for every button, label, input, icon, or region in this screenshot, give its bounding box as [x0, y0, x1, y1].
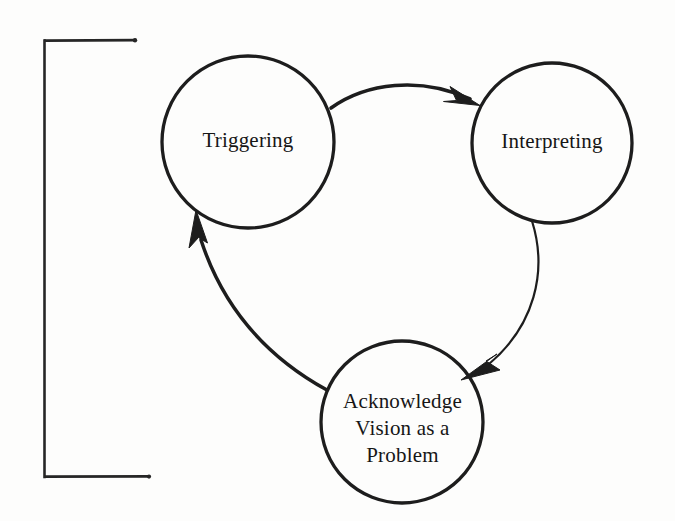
edge-line-acknowledge-to-triggering — [201, 240, 327, 390]
node-label-line-2: Vision as a — [322, 415, 483, 442]
edge-line-triggering-to-interpreting — [331, 85, 470, 108]
left-bracket — [44, 38, 151, 479]
node-label-triggering: Triggering — [161, 128, 335, 153]
edge-acknowledge-to-triggering — [189, 210, 327, 390]
node-label-interpreting: Interpreting — [466, 129, 638, 154]
node-label-line-3: Problem — [322, 442, 483, 469]
node-label-acknowledge-vision-as-a-problem: Acknowledge Vision as a Problem — [322, 388, 483, 469]
bracket-bottom-corner-nib — [147, 475, 151, 479]
diagram-canvas: Triggering Interpreting Acknowledge Visi… — [0, 0, 675, 521]
arrowhead-into-acknowledge — [461, 354, 500, 380]
edge-line-interpreting-to-acknowledge — [489, 221, 538, 364]
edge-interpreting-to-acknowledge — [461, 221, 538, 380]
bracket-top-corner-nib — [133, 38, 137, 42]
edge-triggering-to-interpreting — [331, 85, 480, 108]
node-label-line-1: Acknowledge — [322, 388, 483, 415]
